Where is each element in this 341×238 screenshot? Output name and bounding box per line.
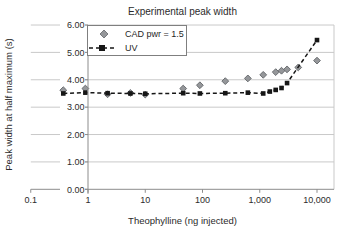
uv-data-point xyxy=(83,90,88,95)
y-tick-label-1.00: 1.00 xyxy=(67,157,85,167)
cad-data-point xyxy=(278,67,285,74)
legend-label-cad: CAD pwr = 1.5 xyxy=(125,29,184,39)
x-axis-title: Theophylline (ng injected) xyxy=(24,215,341,226)
cad-data-point xyxy=(244,75,251,82)
y-tick-label-3.00: 3.00 xyxy=(67,102,85,112)
diamond-marker-icon xyxy=(88,28,125,40)
uv-data-point xyxy=(223,91,228,96)
uv-data-point xyxy=(285,81,290,86)
x-tick-label-100: 100 xyxy=(195,195,210,205)
uv-data-point xyxy=(198,91,203,96)
x-tick-label-1,000: 1,000 xyxy=(248,195,271,205)
uv-data-point xyxy=(128,91,133,96)
uv-data-point xyxy=(268,89,273,94)
legend-entry-cad: CAD pwr = 1.5 xyxy=(88,27,186,41)
uv-data-point xyxy=(105,91,110,96)
uv-data-point xyxy=(143,91,148,96)
y-tick-label-5.00: 5.00 xyxy=(67,48,85,58)
uv-data-point xyxy=(181,91,186,96)
uv-data-point xyxy=(261,91,266,96)
cad-data-point xyxy=(196,82,203,89)
x-tick-label-1: 1 xyxy=(85,195,90,205)
peak-width-chart: Experimental peak width Peak width at ha… xyxy=(0,0,341,238)
uv-data-point xyxy=(279,86,284,91)
y-tick-label-6.00: 6.00 xyxy=(67,20,85,30)
uv-data-point xyxy=(273,88,278,93)
x-tick-label-0.1: 0.1 xyxy=(24,195,37,205)
cad-data-point xyxy=(272,69,279,76)
cad-data-point xyxy=(314,57,321,64)
cad-data-point xyxy=(284,66,291,73)
y-tick-label-4.00: 4.00 xyxy=(67,75,85,85)
cad-data-point xyxy=(222,78,229,85)
y-tick-label-2.00: 2.00 xyxy=(67,130,85,140)
cad-data-point xyxy=(260,71,267,78)
uv-data-point xyxy=(315,38,320,43)
uv-data-point xyxy=(61,91,66,96)
uv-data-point xyxy=(246,90,251,95)
x-tick-label-10,000: 10,000 xyxy=(303,195,331,205)
legend-entry-uv: UV xyxy=(88,41,186,55)
y-tick-label-0.00: 0.00 xyxy=(67,185,85,195)
legend-label-uv: UV xyxy=(125,43,138,53)
legend: CAD pwr = 1.5 UV xyxy=(87,25,187,56)
x-tick-label-10: 10 xyxy=(140,195,150,205)
dashed-line-square-marker-icon xyxy=(88,42,125,54)
